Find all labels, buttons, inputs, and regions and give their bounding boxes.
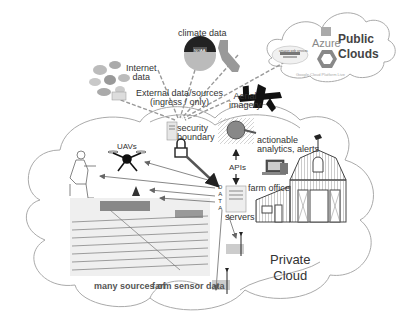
- amazon-label: amazon web services: [279, 50, 308, 53]
- google-cloud-label: Google Cloud Platform Live: [296, 73, 345, 77]
- internet-globes-icon: [89, 61, 130, 100]
- magnifier-globe-icon: [218, 118, 256, 144]
- farm-office-label: farm office: [248, 184, 290, 193]
- servers-label: servers: [225, 213, 255, 222]
- internet-data-label: Internet data: [126, 64, 157, 83]
- data-vertical-label: D A T A: [218, 184, 222, 212]
- aerial-imagery-label: Aerial imagery: [229, 92, 261, 111]
- farmer-icon: [70, 151, 96, 198]
- azure-label: Azure: [312, 38, 341, 50]
- apis-label: APIs: [229, 164, 246, 172]
- security-server-icon: [167, 122, 177, 140]
- actionable-analytics-label: actionable analytics, alerts: [257, 136, 319, 155]
- laptop-icon: [262, 160, 288, 175]
- climate-data-label: climate data: [178, 29, 227, 38]
- servers-icon: [226, 186, 246, 212]
- irrigation-field-map-icon: [70, 186, 210, 276]
- external-sources-label: External data/sources (ingress / only): [136, 89, 223, 108]
- private-cloud-label: Private Cloud: [270, 253, 310, 282]
- azure-logo-icon: [321, 27, 331, 36]
- public-clouds-label: Public Clouds: [338, 33, 379, 60]
- sensor-data-label-right: farm sensor data: [152, 282, 225, 291]
- security-to-data-arrow: [186, 156, 218, 186]
- noaa-logo-icon: [184, 36, 216, 71]
- uavs-label: UAVs: [117, 143, 137, 151]
- drone-icon: [108, 151, 146, 171]
- security-boundary-label: security boundary: [177, 124, 215, 143]
- noaa-label: NOAA: [194, 49, 205, 53]
